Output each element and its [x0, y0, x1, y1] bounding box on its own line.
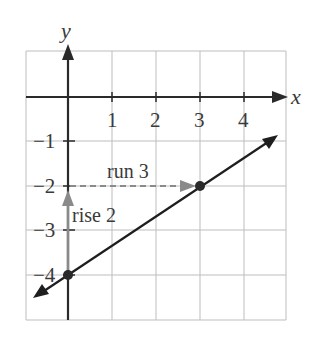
y-tick-label: −3 [33, 218, 55, 242]
rise-label: rise 2 [72, 204, 116, 226]
point-0-neg4 [63, 270, 73, 280]
line-graph: x y 1 2 3 4 −1 −2 −3 −4 run 3 rise 2 [0, 0, 318, 342]
x-axis-label: x [290, 84, 301, 109]
x-tick-label: 1 [107, 108, 118, 132]
point-3-neg2 [195, 181, 205, 191]
x-tick-label: 3 [194, 108, 205, 132]
y-tick-label: −4 [33, 263, 56, 287]
y-axis-arrow-icon [62, 44, 74, 60]
y-axis-label: y [59, 18, 71, 43]
y-tick-label: −2 [33, 174, 55, 198]
y-tick-label: −1 [33, 129, 55, 153]
line-arrowhead-icon [262, 135, 278, 149]
x-tick-label: 4 [238, 108, 249, 132]
x-axis [26, 91, 288, 103]
x-tick-label: 2 [150, 108, 161, 132]
run-label: run 3 [107, 160, 149, 182]
